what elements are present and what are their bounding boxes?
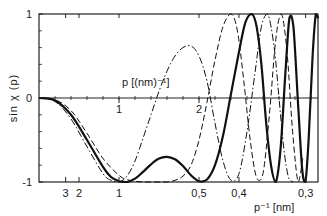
transfer-function-chart: sin χ (p) p [(nm)⁻¹] p⁻¹ [nm] 10-1123210… bbox=[0, 0, 327, 216]
inv-p-tick-label: 1 bbox=[116, 187, 122, 199]
top-axis-label: p [(nm)⁻¹] bbox=[122, 76, 170, 88]
inv-p-tick-label: 3 bbox=[63, 187, 69, 199]
inv-p-tick-label: 2 bbox=[76, 187, 82, 199]
inv-p-tick-label: 0,3 bbox=[298, 187, 313, 199]
y-axis-label: sin χ (p) bbox=[7, 74, 19, 122]
inv-p-tick-label: 0,4 bbox=[231, 187, 246, 199]
y-tick-label: 0 bbox=[26, 92, 32, 104]
inv-p-tick-label: 0,5 bbox=[191, 187, 206, 199]
bottom-axis-label: p⁻¹ [nm] bbox=[254, 201, 294, 213]
y-tick-label: 1 bbox=[26, 8, 32, 20]
y-tick-label: -1 bbox=[22, 176, 32, 188]
p-tick-label: 1 bbox=[116, 103, 122, 115]
p-tick-label: 2 bbox=[196, 103, 202, 115]
